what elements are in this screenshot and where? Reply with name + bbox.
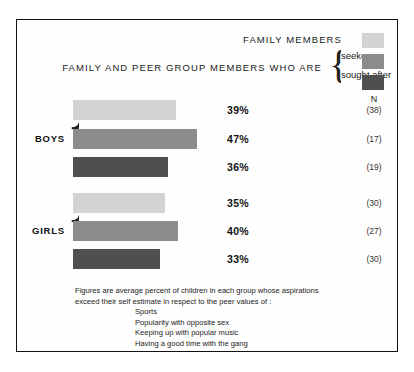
bar-row: 40%(27) (17, 221, 397, 241)
bar-boys-sought-after (73, 157, 168, 177)
footnote-item-gang: Having a good time with the gang (75, 339, 375, 350)
bar-n-value: (19) (354, 157, 394, 177)
bar-girls-family-members (73, 193, 165, 213)
footnote-item-music: Keeping up with popular music (75, 328, 375, 339)
bar-girls-sought-after (73, 249, 160, 269)
legend-brace-icon: { (329, 46, 341, 84)
footnote: Figures are average percent of children … (75, 286, 375, 350)
legend-swatch-seekers (362, 54, 384, 69)
bar-boys-family-members (73, 100, 176, 120)
bar-row: 33%(30) (17, 249, 397, 269)
bar-value-label: 33% (227, 249, 249, 269)
bar-row: 39%(38) (17, 100, 397, 120)
chart-title: FAMILY MEMBERS (17, 34, 342, 45)
bar-row: 36%(19) (17, 157, 397, 177)
bar-row: 35%(30) (17, 193, 397, 213)
bar-n-value: (30) (354, 249, 394, 269)
bar-value-label: 39% (227, 100, 249, 120)
bar-boys-seekers (73, 129, 197, 149)
footnote-line-1: Figures are average percent of children … (75, 286, 375, 297)
chart-subtitle: FAMILY AND PEER GROUP MEMBERS WHO ARE (17, 62, 322, 73)
bar-value-label: 40% (227, 221, 249, 241)
footnote-item-popularity: Popularity with opposite sex (75, 318, 375, 329)
bar-row: 47%(17) (17, 129, 397, 149)
bar-n-value: (30) (354, 193, 394, 213)
bar-n-value: (38) (354, 100, 394, 120)
bar-girls-seekers (73, 221, 178, 241)
legend-swatch-sought-after (362, 75, 384, 90)
bar-value-label: 47% (227, 129, 249, 149)
bar-n-value: (27) (354, 221, 394, 241)
bar-value-label: 35% (227, 193, 249, 213)
bar-n-value: (17) (354, 129, 394, 149)
bar-value-label: 36% (227, 157, 249, 177)
legend-swatch-family-members (362, 33, 384, 48)
footnote-line-2: exceed their self estimate in respect to… (75, 297, 375, 308)
chart-frame: FAMILY MEMBERS FAMILY AND PEER GROUP MEM… (16, 19, 398, 352)
footnote-item-sports: Sports (75, 307, 375, 318)
